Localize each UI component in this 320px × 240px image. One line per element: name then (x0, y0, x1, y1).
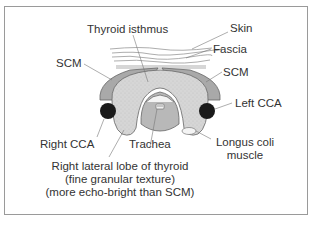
label-right-lobe-line2: (fine granular texture) (30, 173, 210, 186)
fascia-layer (112, 55, 212, 68)
label-right-lobe-line3: (more echo-bright than SCM) (30, 186, 210, 199)
label-left-cca: Left CCA (235, 97, 282, 110)
label-thyroid-isthmus: Thyroid isthmus (87, 23, 168, 36)
label-longus-coli-line2: muscle (208, 149, 282, 162)
label-fascia: Fascia (213, 43, 247, 56)
longus-coli-muscle (182, 128, 196, 135)
label-trachea: Trachea (129, 138, 171, 151)
right-cca-vessel (100, 103, 116, 119)
label-scm-left-side: SCM (56, 57, 82, 70)
label-longus-coli: Longus coli muscle (208, 136, 282, 162)
trachea-air-icon (156, 104, 164, 109)
label-skin: Skin (230, 22, 252, 35)
label-scm-right-side: SCM (223, 66, 249, 79)
label-longus-coli-line1: Longus coli (208, 136, 282, 149)
left-cca-vessel (199, 103, 215, 119)
label-right-lateral-lobe: Right lateral lobe of thyroid (fine gran… (30, 160, 210, 199)
label-right-lobe-line1: Right lateral lobe of thyroid (30, 160, 210, 173)
label-right-cca: Right CCA (40, 138, 94, 151)
